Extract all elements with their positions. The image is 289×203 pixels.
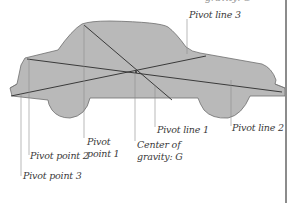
pivot-point-3-label: Pivot point 3	[23, 170, 82, 181]
center-of-gravity-label-line1: Center of	[137, 139, 180, 150]
pivot-point-1-label-line2: point 1	[87, 148, 119, 159]
car-pivot-diagram: gravity: G Pivot line 3 Pivot line 1 Piv…	[0, 0, 289, 203]
pivot-point-1-label-line1: Pivot	[87, 136, 110, 147]
pivot-point-2-label: Pivot point 2	[30, 150, 89, 161]
pivot-line-3-label: Pivot line 3	[189, 9, 241, 20]
car-body	[10, 21, 285, 118]
center-of-gravity-label-line2: gravity: G	[137, 151, 183, 162]
pivot-line-2-label: Pivot line 2	[232, 122, 284, 133]
center-of-gravity-point	[135, 71, 137, 73]
pivot-line-1-label: Pivot line 1	[157, 124, 209, 135]
frame-right-border	[285, 0, 287, 203]
top-cropped-label: gravity: G	[205, 0, 251, 3]
